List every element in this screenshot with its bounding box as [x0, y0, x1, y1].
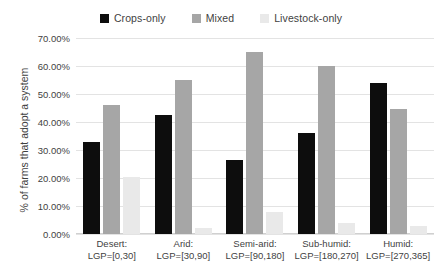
y-axis-title: % of farms that adopt a system [18, 40, 30, 240]
legend-swatch-livestock-only-icon [260, 14, 269, 23]
legend-item-livestock-only: Livestock-only [260, 12, 342, 24]
legend-swatch-crops-only-icon [100, 14, 109, 23]
bar-groups [76, 38, 434, 234]
x-axis-category-name: Desert: [76, 238, 148, 250]
bar-group [362, 38, 434, 234]
x-axis-category-label: Semi-arid:LGP=[90,180] [219, 238, 291, 262]
bar-group [148, 38, 220, 234]
x-axis-category-label: Humid:LGP=[270,365] [362, 238, 434, 262]
bar-mixed [246, 52, 263, 234]
bar-livestock-only [123, 177, 140, 234]
bar-livestock-only [195, 228, 212, 234]
x-axis-category-name: Sub-humid: [291, 238, 363, 250]
y-axis-tick-label: 10.00% [38, 201, 70, 212]
bar-livestock-only [338, 223, 355, 234]
chart-legend: Crops-only Mixed Livestock-only [0, 12, 442, 24]
bar-group [291, 38, 363, 234]
x-axis-category-range: LGP=[270,365] [362, 250, 434, 262]
bar-crops-only [155, 115, 172, 234]
legend-swatch-mixed-icon [192, 14, 201, 23]
x-axis-category-name: Humid: [362, 238, 434, 250]
x-axis-category-label: Sub-humid:LGP=[180,270] [291, 238, 363, 262]
bar-crops-only [370, 83, 387, 234]
x-axis-labels: Desert:LGP=[0,30]Arid:LGP=[30,90]Semi-ar… [76, 238, 434, 262]
x-axis-category-label: Arid:LGP=[30,90] [148, 238, 220, 262]
bar-mixed [103, 105, 120, 234]
y-axis-tick-label: 60.00% [38, 61, 70, 72]
legend-item-crops-only: Crops-only [100, 12, 166, 24]
x-axis-category-label: Desert:LGP=[0,30] [76, 238, 148, 262]
bar-crops-only [298, 133, 315, 234]
legend-item-mixed: Mixed [192, 12, 235, 24]
x-axis-category-range: LGP=[30,90] [148, 250, 220, 262]
bar-mixed [390, 109, 407, 234]
legend-label-crops-only: Crops-only [114, 12, 166, 24]
x-axis-category-range: LGP=[90,180] [219, 250, 291, 262]
legend-label-livestock-only: Livestock-only [274, 12, 342, 24]
x-axis-category-range: LGP=[0,30] [76, 250, 148, 262]
bar-group [76, 38, 148, 234]
y-axis-tick-label: 70.00% [38, 33, 70, 44]
bar-crops-only [83, 142, 100, 234]
y-axis-tick-label: 0.00% [43, 229, 70, 240]
bar-chart: Crops-only Mixed Livestock-only % of far… [0, 0, 442, 274]
y-axis-tick-label: 40.00% [38, 117, 70, 128]
x-axis-category-name: Arid: [148, 238, 220, 250]
bar-mixed [175, 80, 192, 234]
plot-area: 70.00%60.00%50.00%40.00%30.00%20.00%10.0… [76, 38, 434, 234]
y-axis-tick-label: 20.00% [38, 173, 70, 184]
x-axis-category-name: Semi-arid: [219, 238, 291, 250]
bar-livestock-only [410, 226, 427, 234]
gridline [76, 234, 434, 235]
legend-label-mixed: Mixed [206, 12, 235, 24]
bar-group [219, 38, 291, 234]
bar-mixed [318, 66, 335, 234]
y-axis-tick-label: 30.00% [38, 145, 70, 156]
bar-crops-only [226, 160, 243, 234]
y-axis-tick-label: 50.00% [38, 89, 70, 100]
bar-livestock-only [266, 212, 283, 234]
x-axis-category-range: LGP=[180,270] [291, 250, 363, 262]
